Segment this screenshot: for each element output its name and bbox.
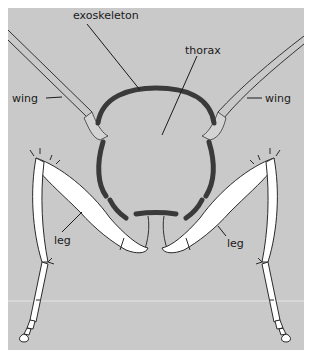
- exoskeleton-sternum: [136, 213, 176, 215]
- leader-wing-left: [46, 97, 62, 98]
- leader-leg-right: [218, 226, 226, 236]
- leader-exoskeleton: [87, 24, 140, 90]
- exoskeleton-left: [99, 142, 106, 196]
- leader-leg-left: [62, 212, 82, 232]
- label-leg-left: leg: [54, 234, 71, 247]
- wing-right: [218, 36, 304, 118]
- sternum-stem: [144, 216, 168, 252]
- thorax-shoulder-left: [84, 112, 108, 140]
- label-wing-right: wing: [265, 92, 291, 105]
- insect-thorax-diagram: exoskeleton thorax wing wing leg leg: [0, 0, 310, 350]
- exoskeleton-top: [98, 88, 214, 123]
- label-thorax: thorax: [185, 44, 221, 57]
- exoskeleton-right-lower: [186, 200, 202, 218]
- label-wing-left: wing: [12, 92, 38, 105]
- exoskeleton-right: [206, 142, 213, 196]
- label-leg-right: leg: [227, 237, 244, 250]
- exoskeleton-left-lower: [110, 200, 126, 218]
- leg-left: [20, 148, 149, 342]
- label-exoskeleton: exoskeleton: [73, 9, 139, 22]
